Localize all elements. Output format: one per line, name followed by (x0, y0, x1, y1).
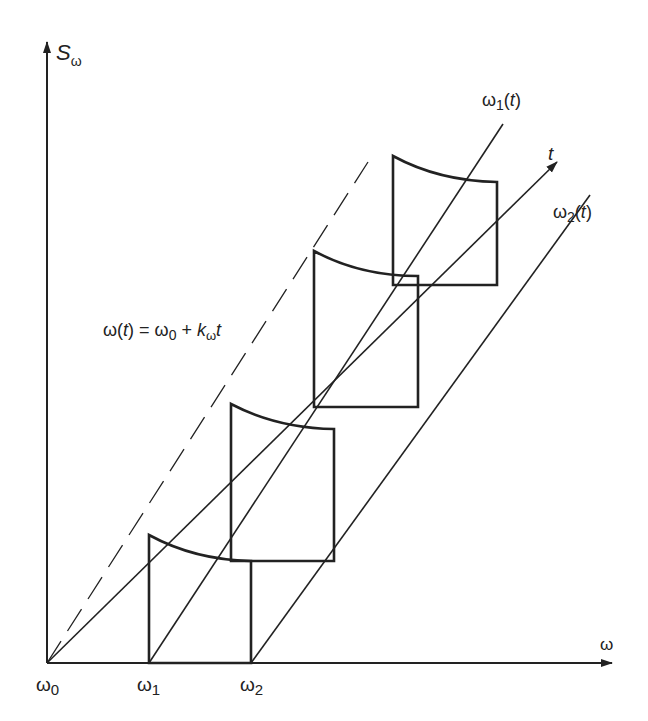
tick-omega1: ω1 (137, 674, 160, 698)
axes (47, 42, 612, 663)
spectrum-panel-3 (314, 251, 418, 407)
spectrum-panel-2 (231, 404, 334, 561)
t-axis-label: t (548, 143, 554, 164)
omega2-t-label: ω2(t) (553, 202, 592, 225)
t-axis (47, 162, 557, 663)
omega1-t-line (149, 124, 503, 663)
tick-omega2: ω2 (240, 674, 263, 698)
frequency-time-diagram: Sω ω t ω0 ω1 ω2 ω1(t) ω2(t) ω(t) = ω0 + … (0, 0, 648, 721)
spectrum-panel-4 (393, 156, 497, 285)
frequency-equation: ω(t) = ω0 + kωt (103, 320, 222, 343)
omega1-t-label: ω1(t) (482, 90, 521, 113)
instantaneous-frequency-dashed-line (47, 162, 368, 663)
y-axis-label: Sω (56, 40, 82, 69)
x-axis-label: ω (600, 635, 613, 654)
tick-omega0: ω0 (36, 674, 59, 698)
spectrum-panel-1 (149, 535, 251, 663)
